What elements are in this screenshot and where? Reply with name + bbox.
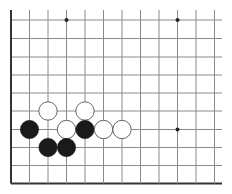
white-stone[interactable] — [39, 102, 57, 120]
black-stone[interactable] — [39, 138, 57, 156]
stones-layer — [20, 102, 131, 157]
go-board[interactable] — [0, 0, 232, 194]
white-stone[interactable] — [57, 120, 75, 138]
black-stone[interactable] — [76, 120, 94, 138]
go-board-canvas[interactable] — [0, 0, 232, 194]
black-stone[interactable] — [57, 138, 75, 156]
white-stone[interactable] — [113, 120, 131, 138]
white-stone[interactable] — [94, 120, 112, 138]
star-point — [176, 18, 180, 22]
board-grid — [11, 10, 222, 184]
star-point — [65, 18, 69, 22]
white-stone[interactable] — [76, 102, 94, 120]
black-stone[interactable] — [20, 120, 38, 138]
star-point — [176, 128, 180, 132]
